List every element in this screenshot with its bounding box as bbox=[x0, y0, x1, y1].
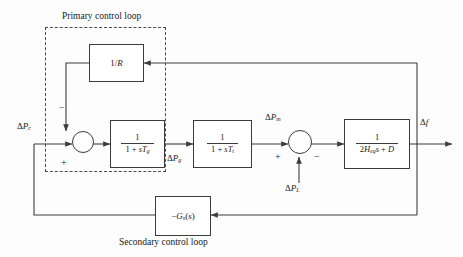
summing-junction-load[interactable] bbox=[288, 130, 312, 154]
block-power-system[interactable]: 1 2Heqs + D bbox=[344, 119, 410, 169]
block-governor-label: 1 1 + sTg bbox=[121, 133, 153, 154]
block-turbine[interactable]: 1 1 + sTt bbox=[193, 120, 252, 168]
sign-plus-setpoint: + bbox=[61, 158, 67, 168]
signal-label-delta-pc: ΔPc bbox=[17, 122, 31, 131]
block-turbine-label: 1 1 + sTt bbox=[207, 133, 238, 154]
signal-label-delta-pm: ΔPm bbox=[265, 113, 281, 122]
sign-minus-load: − bbox=[314, 152, 320, 162]
secondary-control-loop-caption: Secondary control loop bbox=[119, 238, 208, 248]
block-power-system-label: 1 2Heqs + D bbox=[356, 133, 398, 154]
block-secondary-controller[interactable]: −Gs(s) bbox=[155, 196, 211, 236]
block-governor[interactable]: 1 1 + sTg bbox=[110, 120, 165, 168]
summing-junction-primary[interactable] bbox=[72, 131, 94, 153]
block-secondary-controller-label: −Gs(s) bbox=[171, 211, 194, 221]
signal-label-delta-f: Δf bbox=[420, 118, 428, 127]
block-droop-gain-label: 1/R bbox=[110, 58, 123, 68]
signal-label-delta-pl: ΔPL bbox=[285, 184, 300, 193]
block-droop-gain[interactable]: 1/R bbox=[89, 44, 144, 82]
sign-plus-mechanical: + bbox=[275, 152, 281, 162]
signal-label-delta-pg: ΔPg bbox=[167, 154, 181, 163]
block-diagram-canvas: Primary control loop Secondary control l… bbox=[0, 0, 463, 257]
sign-minus-droop: − bbox=[59, 103, 65, 113]
primary-control-loop-caption: Primary control loop bbox=[62, 12, 141, 22]
